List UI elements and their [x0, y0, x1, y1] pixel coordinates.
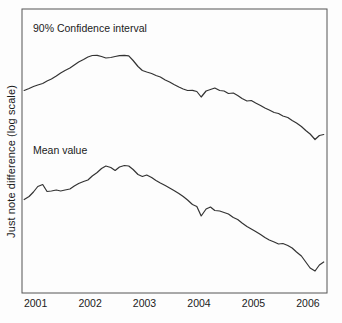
y-axis-label: Just note difference (log scale) [0, 0, 22, 323]
x-tick-label-2001: 2001 [24, 297, 47, 309]
x-tick-label-2004: 2004 [187, 297, 210, 309]
x-tick-label-2003: 2003 [133, 297, 156, 309]
x-tick-label-2006: 2006 [296, 297, 319, 309]
line-chart-plot [0, 0, 342, 323]
annotation-confidence-interval: 90% Confidence interval [33, 22, 147, 34]
annotation-mean-value: Mean value [33, 144, 87, 156]
x-tick-label-2002: 2002 [78, 297, 101, 309]
chart-figure: Just note difference (log scale) 90% Con… [0, 0, 342, 323]
x-tick-label-2005: 2005 [242, 297, 265, 309]
